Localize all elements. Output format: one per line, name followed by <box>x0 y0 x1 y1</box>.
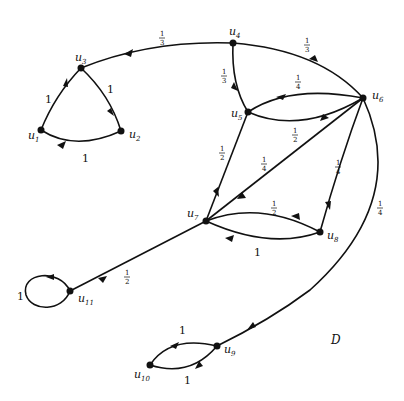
node-u4 <box>230 40 237 47</box>
edge-u3-u2 <box>81 68 121 131</box>
label-u11: u11 <box>78 292 94 307</box>
arrow-icon <box>247 322 256 330</box>
weight-u5-u7: 1 2 <box>219 145 225 162</box>
edge-u10-u9 <box>150 346 217 369</box>
weight-u3-u2: 1 <box>107 83 114 96</box>
node-u8 <box>317 229 324 236</box>
edge-u9-u10 <box>150 343 217 365</box>
weight-u7-u11: 1 2 <box>124 269 130 286</box>
label-u3: u3 <box>75 51 87 66</box>
svg-text:1: 1 <box>305 37 309 45</box>
svg-text:1: 1 <box>262 156 266 164</box>
svg-text:4: 4 <box>378 209 383 217</box>
edge-u4-u5 <box>233 43 248 112</box>
svg-text:1: 1 <box>296 74 300 82</box>
svg-text:1: 1 <box>293 127 297 135</box>
svg-text:2: 2 <box>293 136 297 144</box>
svg-text:1: 1 <box>272 200 276 208</box>
weight-u10-u9: 1 <box>184 374 191 387</box>
arrow-icon <box>63 78 68 87</box>
label-u6: u6 <box>372 89 384 104</box>
svg-text:3: 3 <box>305 46 309 54</box>
label-u10: u10 <box>134 368 151 383</box>
node-u11 <box>67 288 74 295</box>
svg-text:2: 2 <box>125 278 129 286</box>
weight-u6-u7: 1 4 <box>261 156 267 173</box>
weight-u9-u10: 1 <box>179 324 186 337</box>
arrow-icon <box>291 213 300 220</box>
graph-title: D <box>330 333 341 347</box>
svg-text:1: 1 <box>336 159 340 167</box>
label-u4: u4 <box>229 25 241 40</box>
edge-u5-u6 <box>248 98 363 121</box>
arrow-icon <box>57 141 66 149</box>
svg-text:2: 2 <box>272 209 276 217</box>
edge-u7-u8 <box>206 213 320 232</box>
weight-u6-u9: 1 4 <box>377 200 383 217</box>
svg-text:1: 1 <box>220 145 224 153</box>
label-u5: u5 <box>231 107 243 122</box>
svg-text:1: 1 <box>222 68 226 76</box>
weight-u11-u11: 1 <box>17 290 24 303</box>
svg-text:4: 4 <box>262 165 267 173</box>
node-u10 <box>147 362 154 369</box>
node-u7 <box>203 218 210 225</box>
node-u1 <box>38 127 45 134</box>
node-u9 <box>214 343 221 350</box>
node-u5 <box>245 109 252 116</box>
svg-text:4: 4 <box>336 168 341 176</box>
svg-text:1: 1 <box>125 269 129 277</box>
directed-graph-d: u1 u2 u3 u4 u5 u6 u7 u8 u9 u10 u11 1 1 1… <box>0 0 404 401</box>
edge-u11-u11 <box>25 276 70 308</box>
weight-u2-u1: 1 <box>82 152 89 165</box>
label-u7: u7 <box>187 207 199 222</box>
weight-u6-u8: 1 4 <box>335 159 341 176</box>
weight-u6-u5: 1 4 <box>295 74 301 91</box>
svg-text:1: 1 <box>160 30 164 38</box>
node-u2 <box>118 128 125 135</box>
arrow-icon <box>225 235 234 242</box>
node-u6 <box>360 95 367 102</box>
edge-u2-u1 <box>41 130 121 141</box>
weight-u4-u5: 1 3 <box>221 68 227 85</box>
weight-u1-u3: 1 <box>45 93 52 106</box>
weight-u4-u6: 1 3 <box>304 37 310 54</box>
label-u2: u2 <box>129 128 141 143</box>
arrow-icon <box>98 276 107 283</box>
svg-text:4: 4 <box>296 83 301 91</box>
svg-text:3: 3 <box>160 39 164 47</box>
edge-u7-u11 <box>70 221 206 291</box>
svg-text:1: 1 <box>378 200 382 208</box>
weight-u5-u6: 1 2 <box>292 127 298 144</box>
weight-u7-u8: 1 2 <box>271 200 277 217</box>
svg-text:2: 2 <box>220 154 224 162</box>
weight-u4-u3: 1 3 <box>159 30 165 47</box>
edge-u4-u3 <box>81 43 233 68</box>
label-u8: u8 <box>327 229 339 244</box>
edge-u6-u5 <box>248 93 363 112</box>
svg-text:3: 3 <box>222 77 226 85</box>
label-u9: u9 <box>224 343 236 358</box>
weight-u8-u7: 1 <box>254 246 261 259</box>
